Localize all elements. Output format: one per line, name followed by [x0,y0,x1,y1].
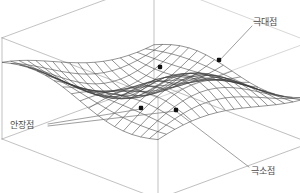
surface-plot-canvas [0,0,300,193]
leader-lines [48,26,252,167]
marker-local-maximum-2 [158,65,162,69]
label-saddle-point: 안장점 [10,120,35,131]
marker-saddle-point [139,106,143,110]
label-local-minimum: 극소점 [251,166,276,177]
surface-mesh [2,44,300,139]
label-local-maximum: 극대점 [253,17,278,28]
surface-plot-figure: 극대점 안장점 극소점 [0,0,300,193]
marker-local-maximum [217,58,221,62]
marker-local-minimum [174,108,178,112]
